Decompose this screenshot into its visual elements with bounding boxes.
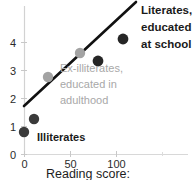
- annotation-literates: Literates, educated at school: [141, 4, 192, 50]
- data-point: [75, 48, 85, 58]
- y-tick-label-1: 1: [10, 121, 16, 133]
- x-axis-title: Reading score:: [46, 167, 130, 180]
- annotation-ex-illiterates-line-1: Ex-illiterates,: [60, 62, 123, 74]
- annotation-literates-line-2: educated: [141, 21, 192, 33]
- annotation-ex-illiterates-line-2: educated in: [60, 78, 117, 90]
- scatter-chart: 0 1 2 3 4 0 50 100: [0, 0, 196, 180]
- data-point: [29, 114, 39, 124]
- chart-canvas: 0 1 2 3 4 0 50 100: [0, 0, 196, 180]
- data-point: [19, 127, 29, 137]
- annotation-illiterates: Illiterates: [37, 131, 85, 143]
- annotation-literates-line-3: at school: [141, 38, 191, 50]
- annotation-ex-illiterates-line-3: adulthood: [60, 94, 108, 106]
- y-axis-tick-labels: 0 1 2 3 4: [10, 37, 16, 161]
- annotation-literates-line-1: Literates,: [141, 4, 192, 16]
- annotation-illiterates-label: Illiterates: [37, 131, 85, 143]
- annotation-ex-illiterates: Ex-illiterates, educated in adulthood: [60, 62, 123, 106]
- x-tick-label-0: 0: [21, 158, 27, 170]
- y-tick-label-3: 3: [10, 65, 16, 77]
- y-tick-label-2: 2: [10, 93, 16, 105]
- data-point: [43, 72, 53, 82]
- y-tick-label-0: 0: [10, 149, 16, 161]
- y-tick-label-4: 4: [10, 37, 16, 49]
- data-point: [118, 34, 129, 45]
